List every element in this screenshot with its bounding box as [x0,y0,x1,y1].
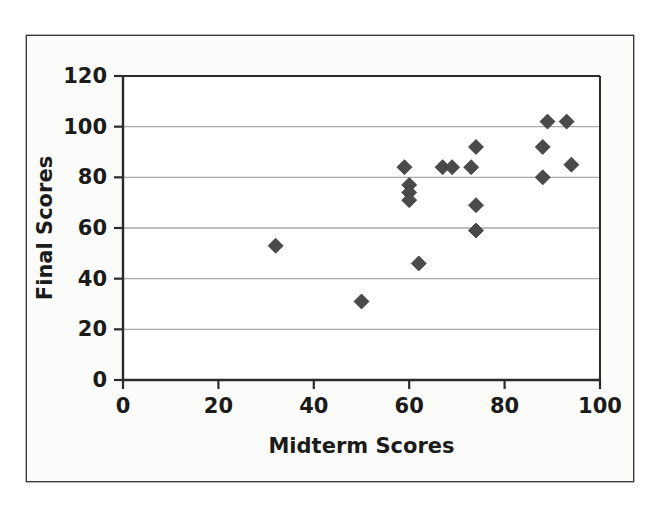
x-tick-label-80: 80 [490,394,519,418]
y-tick-label-100: 100 [63,115,107,139]
y-tick-label-40: 40 [78,267,107,291]
x-axis-ticks: 020406080100 [116,380,622,418]
plot-canvas: 020406080100120020406080100Midterm Score… [0,0,664,508]
scatter-chart-figure: 020406080100120020406080100Midterm Score… [0,0,664,508]
x-tick-label-60: 60 [395,394,424,418]
x-tick-label-40: 40 [299,394,328,418]
x-axis-title: Midterm Scores [268,434,454,458]
y-tick-label-0: 0 [92,368,107,392]
y-tick-label-80: 80 [78,165,107,189]
y-tick-label-120: 120 [63,64,107,88]
y-axis-ticks: 020406080100120 [63,64,123,392]
x-tick-label-0: 0 [116,394,131,418]
y-axis-title: Final Scores [33,156,57,300]
x-tick-label-100: 100 [578,394,622,418]
y-tick-label-20: 20 [78,317,107,341]
y-tick-label-60: 60 [78,216,107,240]
x-tick-label-20: 20 [204,394,233,418]
